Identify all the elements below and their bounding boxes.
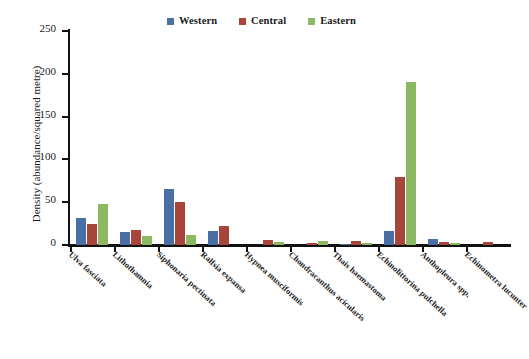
chart-legend: WesternCentralEastern <box>0 16 523 27</box>
bar-western <box>428 239 438 245</box>
x-axis-label: Lithothamnia <box>111 250 155 291</box>
bar-western <box>384 231 394 245</box>
y-tick-mark: 250 <box>62 30 68 32</box>
bar-eastern <box>318 241 328 245</box>
x-axis-label: Echinolittorina pulchella <box>375 250 449 318</box>
bar-central <box>439 242 449 245</box>
bar-group <box>334 31 378 245</box>
x-axis-label: Echinometra lucunter <box>463 250 529 311</box>
bar-eastern <box>142 236 152 245</box>
bar-western <box>208 231 218 245</box>
y-tick-label: 200 <box>40 65 57 77</box>
legend-item-eastern: Eastern <box>308 16 356 27</box>
bar-group <box>466 31 510 245</box>
y-tick-mark: 50 <box>62 201 68 203</box>
y-tick-label: 250 <box>40 22 57 34</box>
legend-swatch-icon <box>308 18 315 25</box>
bar-groups <box>70 31 508 245</box>
legend-label: Central <box>251 16 286 27</box>
bar-central <box>175 202 185 245</box>
bar-western <box>340 244 350 245</box>
legend-label: Eastern <box>320 16 356 27</box>
bar-central <box>483 242 493 245</box>
y-tick-label: 150 <box>40 108 57 120</box>
legend-item-western: Western <box>167 16 217 27</box>
x-axis-label: Ralfsia expansa <box>199 250 248 295</box>
bar-group <box>158 31 202 245</box>
bar-eastern <box>406 82 416 245</box>
bar-group <box>114 31 158 245</box>
x-axis-label: Ulva fasciata <box>67 250 108 289</box>
bar-central <box>87 224 97 245</box>
bar-central <box>131 230 141 245</box>
y-tick-mark: 0 <box>62 244 68 246</box>
y-tick-mark: 200 <box>62 73 68 75</box>
x-axis-category-labels: Ulva fasciataLithothamniaSiphonaria pect… <box>68 250 523 359</box>
bar-group <box>202 31 246 245</box>
y-tick-label: 0 <box>51 236 57 248</box>
bar-eastern <box>274 242 284 245</box>
bar-central <box>307 243 317 245</box>
bar-central <box>263 240 273 245</box>
bar-group <box>246 31 290 245</box>
plot-area: 050100150200250 <box>68 31 508 245</box>
y-tick-mark: 100 <box>62 158 68 160</box>
bar-group <box>70 31 114 245</box>
bar-eastern <box>362 243 372 245</box>
legend-swatch-icon <box>167 18 174 25</box>
bar-western <box>164 189 174 245</box>
bar-central <box>395 177 405 245</box>
bar-western <box>120 232 130 245</box>
y-tick-label: 50 <box>45 193 56 205</box>
y-tick-mark: 150 <box>62 116 68 118</box>
bar-group <box>290 31 334 245</box>
bar-eastern <box>186 235 196 245</box>
bar-group <box>422 31 466 245</box>
legend-label: Western <box>179 16 217 27</box>
legend-item-central: Central <box>239 16 286 27</box>
bar-eastern <box>98 204 108 245</box>
bar-central <box>219 226 229 245</box>
legend-swatch-icon <box>239 18 246 25</box>
bar-group <box>378 31 422 245</box>
y-tick-label: 100 <box>40 150 57 162</box>
bar-central <box>351 241 361 245</box>
x-axis-label: Chondracanthus acicularis <box>287 250 367 323</box>
bar-eastern <box>450 243 460 245</box>
bar-western <box>76 218 86 245</box>
